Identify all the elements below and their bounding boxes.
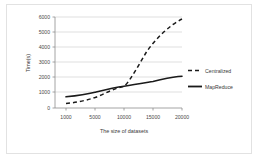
x-tick-label-5000: 5000 — [89, 114, 100, 120]
legend-item-centralized[interactable]: Centralized — [188, 68, 231, 74]
y-tick-label-3000: 3000 — [39, 59, 50, 65]
y-tick-label-2000: 2000 — [39, 74, 50, 80]
x-tick-label-15000: 15000 — [146, 114, 160, 120]
x-axis-title: The size of datasets — [100, 128, 149, 134]
y-axis-title: Time(s) — [25, 54, 31, 72]
y-tick-label-6000: 6000 — [39, 14, 50, 20]
y-tick-label-0: 0 — [47, 105, 50, 111]
line-chart: 6000 5000 4000 3000 2000 1000 0 1000 500… — [0, 0, 258, 161]
x-tick-label-1000: 1000 — [60, 114, 71, 120]
series-line-mapreduce — [66, 76, 182, 97]
series-line-centralized — [66, 19, 182, 104]
gridlines — [55, 17, 182, 92]
legend: Centralized MapReduce — [188, 68, 233, 90]
legend-label-centralized: Centralized — [205, 68, 231, 74]
y-tick-label-5000: 5000 — [39, 29, 50, 35]
y-tick-label-1000: 1000 — [39, 89, 50, 95]
x-tick-label-10000: 10000 — [117, 114, 131, 120]
y-tick-label-4000: 4000 — [39, 44, 50, 50]
x-tick-label-20000: 20000 — [175, 114, 189, 120]
legend-item-mapreduce[interactable]: MapReduce — [188, 84, 233, 90]
legend-label-mapreduce: MapReduce — [205, 84, 233, 90]
chart-container: 6000 5000 4000 3000 2000 1000 0 1000 500… — [0, 0, 258, 161]
